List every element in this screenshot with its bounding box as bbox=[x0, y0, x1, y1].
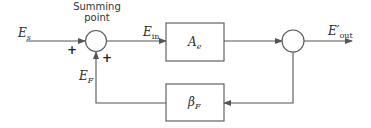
error-signal-label: Ein bbox=[143, 26, 159, 41]
feedback-diagram bbox=[0, 0, 371, 128]
feedback-block-base: β bbox=[188, 95, 195, 109]
error-signal-sub: in bbox=[152, 32, 160, 41]
forward-block-label: Ae bbox=[188, 36, 201, 51]
feedback-block-sub: F bbox=[195, 102, 201, 111]
output-signal-base: E′ bbox=[328, 24, 339, 38]
summing-label-line2: point bbox=[72, 12, 122, 23]
output-signal-label: E′out bbox=[328, 25, 353, 40]
feedback-signal-sub: F bbox=[88, 76, 94, 85]
feedback-plus-sign: + bbox=[102, 52, 112, 64]
input-signal-base: E bbox=[18, 26, 27, 40]
summing-label-line1: Summing bbox=[72, 1, 122, 12]
forward-block-base: A bbox=[188, 35, 197, 49]
feedback-block-label: βF bbox=[188, 96, 201, 111]
summing-point bbox=[86, 31, 107, 52]
input-signal-sub: s bbox=[27, 33, 31, 42]
feedback-signal-label: EF bbox=[79, 70, 93, 85]
output-node bbox=[282, 30, 304, 52]
summing-point-label: Summing point bbox=[72, 1, 122, 23]
forward-block-sub: e bbox=[197, 42, 202, 51]
output-signal-sub: out bbox=[339, 31, 352, 40]
input-signal-label: Es bbox=[18, 27, 31, 42]
feedback-path-right bbox=[224, 52, 293, 103]
input-plus-sign: + bbox=[67, 44, 77, 56]
feedback-signal-base: E bbox=[79, 69, 88, 83]
error-signal-base: E bbox=[143, 25, 152, 39]
